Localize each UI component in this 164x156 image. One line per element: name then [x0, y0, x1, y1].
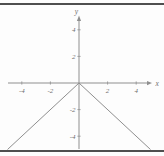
- y-axis-arrow-icon: [77, 16, 81, 22]
- plot-canvas: -4-22442-2-4xy: [0, 0, 164, 156]
- y-tick-label: 2: [72, 53, 76, 61]
- x-axis-arrow-icon: [147, 81, 152, 85]
- x-tick-label: -4: [19, 87, 25, 95]
- x-tick-label: -2: [47, 87, 53, 95]
- x-axis-label: x: [155, 79, 160, 88]
- x-tick-label: 4: [134, 87, 138, 95]
- y-tick-label: 4: [72, 26, 76, 34]
- bottom-rule: [0, 150, 164, 152]
- y-tick-label: -4: [70, 133, 76, 141]
- y-tick-label: -2: [70, 106, 76, 114]
- y-axis-label: y: [74, 7, 79, 16]
- function-graph-figure: -4-22442-2-4xy: [0, 0, 164, 156]
- x-tick-label: 2: [106, 87, 110, 95]
